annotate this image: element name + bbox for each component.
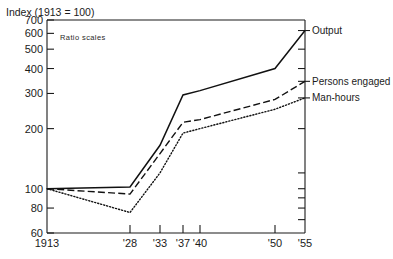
y-tick-label: 300 (25, 87, 43, 99)
y-tick-label: 500 (25, 43, 43, 55)
ratio-scales-note: Ratio scales (60, 33, 106, 42)
y-tick-label: 80 (31, 202, 43, 214)
chart-axis-title: Index (1913 = 100) (6, 6, 94, 18)
y-tick-label: 600 (25, 27, 43, 39)
series-line-output (47, 31, 305, 189)
plot-frame (47, 20, 305, 233)
line-chart: Index (1913 = 100) Ratio scales 70060050… (0, 0, 393, 259)
x-tick-label: '50 (268, 237, 282, 249)
y-tick-label: 400 (25, 63, 43, 75)
x-tick-label: '33 (153, 237, 167, 249)
chart-container: Index (1913 = 100) Ratio scales 70060050… (0, 0, 393, 259)
x-axis-ticks (130, 225, 275, 233)
x-tick-label: '40 (193, 237, 207, 249)
y-axis-ticks (47, 20, 54, 233)
y-axis-ticks-right (298, 31, 305, 220)
series-lines (47, 31, 310, 213)
series-line-persons-engaged (47, 81, 305, 194)
series-label-man-hours: Man-hours (312, 92, 360, 103)
y-tick-label: 200 (25, 123, 43, 135)
series-label-persons-engaged: Persons engaged (312, 76, 390, 87)
y-tick-label: 700 (25, 14, 43, 26)
x-tick-label: 1913 (35, 237, 59, 249)
x-tick-label: '55 (298, 237, 312, 249)
x-tick-label: '37 (176, 237, 190, 249)
y-tick-label: 100 (25, 183, 43, 195)
x-axis-tick-labels: 1913'28'33'37'40'50'55 (35, 237, 312, 249)
x-tick-label: '28 (123, 237, 137, 249)
series-line-man-hours (47, 98, 305, 213)
series-label-output: Output (312, 25, 342, 36)
y-axis-tick-labels: 7006005004003002001008060 (25, 14, 43, 239)
